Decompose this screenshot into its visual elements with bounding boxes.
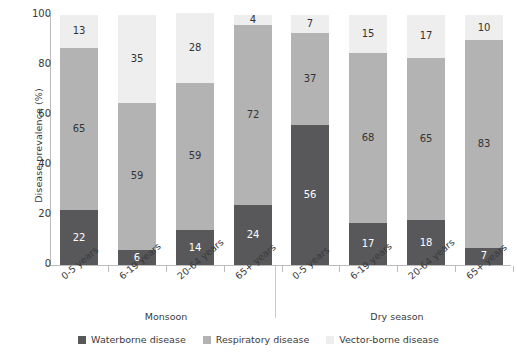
y-tick-label: 0	[7, 258, 51, 269]
bar-segment-value: 24	[247, 230, 260, 240]
bar-segment-value: 28	[189, 43, 202, 53]
bar-segment-value: 22	[73, 233, 86, 243]
bar-segment-value: 59	[131, 171, 144, 181]
bar-segment-value: 65	[73, 124, 86, 134]
bar-segment-vector-borne[interactable]: 7	[291, 15, 329, 33]
x-axis-line	[51, 265, 511, 266]
legend-item[interactable]: Respiratory disease	[203, 334, 310, 345]
bar-segment-vector-borne[interactable]: 17	[407, 15, 445, 58]
x-tick-mark	[166, 266, 167, 272]
legend-item[interactable]: Waterborne disease	[78, 334, 186, 345]
legend-swatch-icon	[78, 336, 86, 344]
bar-segment-value: 7	[307, 19, 313, 29]
bar-segment-vector-borne[interactable]: 35	[118, 15, 156, 103]
bar-segment-value: 59	[189, 151, 202, 161]
bar-segment-vector-borne[interactable]: 10	[465, 15, 503, 40]
bar-segment-value: 18	[420, 238, 433, 248]
x-group-label: Monsoon	[60, 311, 272, 322]
y-tick-label: 20	[7, 208, 51, 219]
bar-segment-respiratory[interactable]: 59	[118, 103, 156, 251]
bar-segment-value: 13	[73, 26, 86, 36]
bar-segment-vector-borne[interactable]: 4	[234, 15, 272, 25]
bar-segment-respiratory[interactable]: 59	[176, 83, 214, 231]
bar-dry-season-0-5-years[interactable]: 73756	[291, 15, 329, 265]
bar-segment-respiratory[interactable]: 65	[60, 48, 98, 211]
bar-dry-season-20-64-years[interactable]: 176518	[407, 15, 445, 265]
stacked-bar-chart: Disease prevalence (%) 020406080100 1365…	[0, 0, 517, 353]
x-group-label: Dry season	[291, 311, 503, 322]
bar-dry-season-65+-years[interactable]: 10837	[465, 15, 503, 265]
legend-label: Vector-borne disease	[339, 334, 439, 345]
bar-monsoon-6-19-years[interactable]: 35596	[118, 15, 156, 265]
legend-label: Respiratory disease	[216, 334, 310, 345]
bar-segment-value: 72	[247, 110, 260, 120]
legend-swatch-icon	[203, 336, 211, 344]
bar-dry-season-6-19-years[interactable]: 156817	[349, 15, 387, 265]
legend-label: Waterborne disease	[91, 334, 186, 345]
x-tick-mark	[513, 266, 514, 272]
bar-segment-vector-borne[interactable]: 15	[349, 15, 387, 53]
bar-segment-vector-borne[interactable]: 13	[60, 15, 98, 48]
chart-legend: Waterborne diseaseRespiratory diseaseVec…	[0, 334, 517, 345]
bar-segment-value: 56	[304, 190, 317, 200]
legend-item[interactable]: Vector-borne disease	[326, 334, 439, 345]
bar-segment-vector-borne[interactable]: 28	[176, 13, 214, 83]
plot-area: 1365223559628591447224737561568171765181…	[51, 15, 511, 265]
bar-segment-value: 15	[362, 29, 375, 39]
x-tick-mark	[224, 266, 225, 272]
group-separator	[275, 266, 276, 318]
y-tick-label: 60	[7, 108, 51, 119]
bar-segment-value: 83	[478, 139, 491, 149]
y-tick-label: 80	[7, 58, 51, 69]
bar-monsoon-20-64-years[interactable]: 285914	[176, 13, 214, 266]
bar-segment-value: 37	[304, 74, 317, 84]
bar-segment-respiratory[interactable]: 37	[291, 33, 329, 126]
x-tick-mark	[397, 266, 398, 272]
bar-segment-value: 65	[420, 134, 433, 144]
bar-segment-value: 17	[420, 31, 433, 41]
x-tick-mark	[339, 266, 340, 272]
bar-segment-respiratory[interactable]: 65	[407, 58, 445, 221]
bar-segment-value: 4	[250, 15, 256, 25]
legend-swatch-icon	[326, 336, 334, 344]
bar-segment-value: 68	[362, 133, 375, 143]
bar-monsoon-0-5-years[interactable]: 136522	[60, 15, 98, 265]
x-tick-mark	[282, 266, 283, 272]
x-tick-mark	[108, 266, 109, 272]
bar-segment-respiratory[interactable]: 68	[349, 53, 387, 223]
bar-segment-value: 17	[362, 239, 375, 249]
bar-segment-value: 35	[131, 54, 144, 64]
bar-monsoon-65+-years[interactable]: 47224	[234, 15, 272, 265]
x-tick-mark	[455, 266, 456, 272]
bar-segment-respiratory[interactable]: 72	[234, 25, 272, 205]
y-tick-label: 40	[7, 158, 51, 169]
bar-segment-respiratory[interactable]: 83	[465, 40, 503, 248]
y-tick-label: 100	[7, 8, 51, 19]
bar-segment-value: 10	[478, 23, 491, 33]
